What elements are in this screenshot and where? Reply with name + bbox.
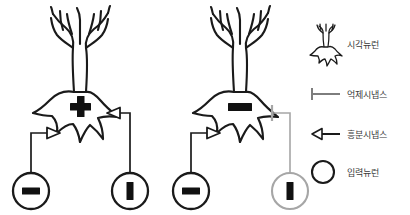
soma [33,91,118,142]
legend: 시각뉴런 억제시냅스 흥분시냅스 [305,0,410,215]
legend-item-neuron: 시각뉴런 [305,22,410,66]
legend-item-inhibitory-synapse: 억제시냅스 [305,72,410,116]
soma [193,91,278,142]
inhibitory-panel [160,0,320,215]
inhibitory-panel-drawing [160,0,320,215]
dendrite-tree [211,6,270,92]
input-neuron-icon [305,150,347,194]
excitatory-panel-drawing [0,0,160,215]
dendrite-tree [51,6,110,92]
legend-label-excitatory-synapse: 흥분시냅스 [347,128,387,141]
figure-root: 시각뉴런 억제시냅스 흥분시냅스 [0,0,410,215]
legend-label-neuron: 시각뉴런 [347,38,379,51]
soma-sign-minus [228,103,252,111]
legend-label-input-neuron: 입력뉴런 [347,166,379,179]
input-neuron-left [13,173,49,209]
input-neuron-right [272,173,308,209]
input-neuron-left [173,173,209,209]
neuron-icon [305,22,347,66]
inhibitory-synapse-icon [305,72,347,116]
excitatory-panel [0,0,160,215]
input-neuron-right [112,173,148,209]
legend-label-inhibitory-synapse: 억제시냅스 [347,88,387,101]
legend-item-input-neuron: 입력뉴런 [305,150,410,194]
